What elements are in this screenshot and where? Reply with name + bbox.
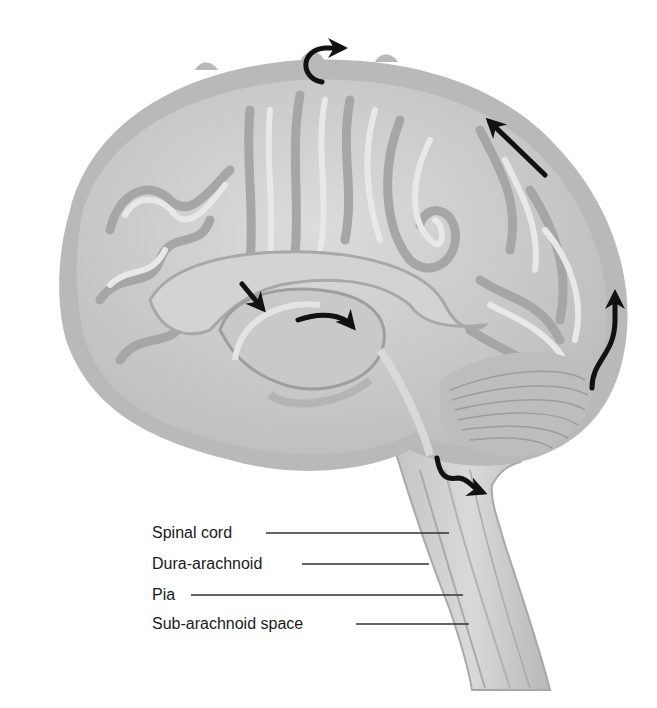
label-sub-arachnoid-space: Sub-arachnoid space <box>152 615 303 633</box>
label-pia: Pia <box>152 586 175 604</box>
label-dura-arachnoid: Dura-arachnoid <box>152 555 262 573</box>
label-spinal-cord: Spinal cord <box>152 524 232 542</box>
spinal-cord-shape <box>392 430 550 690</box>
cerebellum <box>440 352 593 457</box>
brain-csf-diagram <box>0 0 657 708</box>
